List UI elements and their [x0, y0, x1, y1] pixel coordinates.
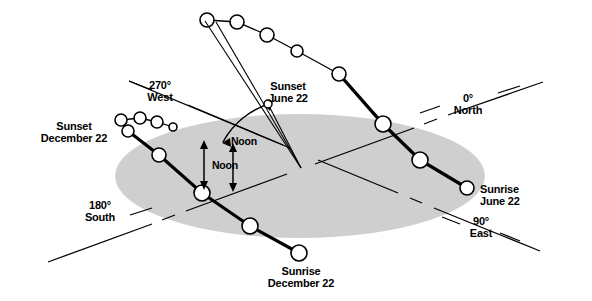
horizon-plane-ellipse	[115, 114, 485, 238]
sunset-june-line2: June 22	[253, 92, 323, 104]
sun-position-marker	[122, 125, 134, 137]
sun-position-marker	[194, 185, 210, 201]
diagram-canvas	[0, 0, 592, 301]
sunset-june-line1: Sunset	[270, 80, 305, 92]
sunrise-december-line1: Sunrise	[282, 265, 321, 277]
sun-position-marker	[412, 152, 428, 168]
sunrise-june-line1: Sunrise	[480, 183, 519, 195]
north-degrees: 0°	[463, 92, 473, 104]
sun-position-marker	[169, 123, 177, 131]
compass-label-north: 0° North	[437, 92, 499, 116]
sunrise-december-marker	[291, 245, 307, 261]
sun-position-marker	[332, 67, 346, 81]
label-noon-december: Noon	[203, 160, 247, 172]
sun-position-marker	[260, 28, 274, 42]
south-name: South	[68, 211, 132, 223]
label-sunset-june: Sunset June 22	[253, 80, 323, 104]
west-name: West	[128, 91, 192, 103]
sunrise-june-marker	[460, 181, 474, 195]
sun-position-marker	[242, 218, 258, 234]
label-sunrise-june: Sunrise June 22	[480, 183, 560, 207]
sun-position-marker	[230, 15, 244, 29]
sunset-december-line2: December 22	[26, 132, 122, 144]
compass-label-west: 270° West	[128, 79, 192, 103]
label-noon-june: Noon	[222, 136, 266, 148]
sunrise-june-line2: June 22	[480, 195, 560, 207]
sunrise-december-line2: December 22	[250, 277, 352, 289]
sun-position-marker	[375, 116, 391, 132]
sun-position-marker	[152, 148, 166, 162]
east-name: East	[456, 227, 506, 239]
label-sunset-december: Sunset December 22	[26, 120, 122, 144]
west-degrees: 270°	[149, 79, 171, 91]
north-name: North	[437, 104, 499, 116]
sun-path-diagram: 270° West 0° North 180° South 90° East S…	[0, 0, 592, 301]
sun-position-marker	[134, 112, 146, 124]
sunset-december-line1: Sunset	[56, 120, 91, 132]
sun-position-marker	[291, 45, 303, 57]
east-degrees: 90°	[473, 215, 489, 227]
june-path-line	[207, 20, 339, 74]
label-sunrise-december: Sunrise December 22	[250, 265, 352, 289]
compass-label-south: 180° South	[68, 199, 132, 223]
compass-label-east: 90° East	[456, 215, 506, 239]
sun-position-marker	[151, 116, 163, 128]
south-degrees: 180°	[89, 199, 111, 211]
